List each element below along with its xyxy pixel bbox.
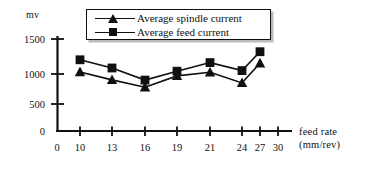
series-average-spindle-current	[75, 58, 265, 92]
chart-container: mv 1500 1000 500 0 0 10 13 16 19 21 24 2…	[0, 0, 391, 169]
x-tick-label-0: 0	[54, 142, 59, 153]
square-marker-icon	[93, 25, 137, 39]
x-axis-title: feed rate (mm/rev)	[299, 125, 340, 151]
x-axis-title-line1: feed rate	[299, 125, 340, 138]
y-tick-label-1000: 1000	[5, 69, 45, 80]
x-tick-label-10: 10	[75, 142, 86, 153]
x-tick-label-13: 13	[107, 142, 118, 153]
x-tick-label-24: 24	[237, 142, 248, 153]
y-tick-label-500: 500	[5, 99, 45, 110]
x-tick-label-19: 19	[172, 142, 183, 153]
x-tick-label-16: 16	[140, 142, 151, 153]
x-tick-label-27: 27	[255, 142, 266, 153]
legend-label-spindle: Average spindle current	[137, 11, 242, 25]
triangle-marker-icon	[93, 11, 137, 25]
legend-label-feed: Average feed current	[137, 25, 229, 39]
x-axis-title-line2: (mm/rev)	[299, 138, 340, 151]
y-tick-label-0: 0	[5, 126, 45, 137]
y-tick-label-1500: 1500	[5, 34, 45, 45]
legend-item-feed: Average feed current	[93, 25, 270, 39]
x-tick-label-21: 21	[205, 142, 216, 153]
legend-item-spindle: Average spindle current	[93, 11, 270, 25]
y-axis-unit-label: mv	[26, 9, 39, 20]
chart-legend: Average spindle current Average feed cur…	[86, 9, 271, 40]
x-tick-label-30: 30	[273, 142, 284, 153]
